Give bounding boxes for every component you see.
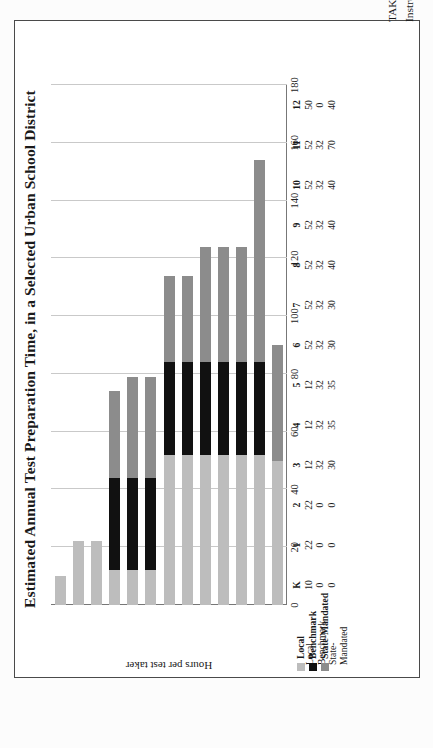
bar-segment-state-mandated <box>272 345 283 461</box>
source-note: TAKEN FROM: Howard Nelson, “Testing More… <box>384 0 417 22</box>
grade-label: 2 <box>291 488 302 522</box>
bar-group <box>55 85 66 605</box>
table-cell-local: 12 <box>303 368 314 402</box>
grade-label: 12 <box>291 88 302 122</box>
table-cell-state: 70 <box>326 128 337 162</box>
table-column-grade-6: 6523230 <box>291 328 337 362</box>
table-cell-benchmark: 0 <box>314 88 325 122</box>
table-cell-benchmark: 0 <box>314 488 325 522</box>
table-cell-benchmark: 32 <box>314 328 325 362</box>
bar-segment-local <box>127 570 138 605</box>
local-swatch <box>297 663 305 671</box>
bar-segment-benchmark <box>218 362 229 454</box>
bar-segment-local <box>55 576 66 605</box>
bar-group <box>272 85 283 605</box>
table-cell-benchmark: 32 <box>314 168 325 202</box>
bar-group <box>236 85 247 605</box>
table-cell-local: 50 <box>303 88 314 122</box>
table-cell-state: 40 <box>326 168 337 202</box>
table-cell-state: 30 <box>326 288 337 322</box>
table-cell-benchmark: 0 <box>314 528 325 562</box>
table-cell-benchmark: 32 <box>314 208 325 242</box>
bar-segment-state-mandated <box>254 160 265 362</box>
bar-segment-benchmark <box>109 478 120 570</box>
legend-item-local[interactable]: Local <box>295 593 307 671</box>
table-cell-local: 22 <box>303 528 314 562</box>
table-cell-state: 0 <box>326 488 337 522</box>
bar-segment-benchmark <box>127 478 138 570</box>
legend-item-state-mandated[interactable]: State-Mandated <box>319 593 331 671</box>
table-cell-benchmark: 32 <box>314 248 325 282</box>
value-axis-label: Hours per test taker <box>51 655 287 677</box>
table-column-grade-5: 5123235 <box>291 368 337 402</box>
table-cell-state: 30 <box>326 448 337 482</box>
bar-group <box>145 85 156 605</box>
table-cell-local: 52 <box>303 168 314 202</box>
bar-segment-state-mandated <box>164 276 175 363</box>
table-cell-benchmark: 32 <box>314 368 325 402</box>
bar-group <box>164 85 175 605</box>
bar-segment-local <box>254 455 265 605</box>
table-cell-benchmark: 32 <box>314 408 325 442</box>
bar-group <box>218 85 229 605</box>
bar-group <box>73 85 84 605</box>
bar-segment-local <box>272 461 283 605</box>
value-axis-label-text: Hours per test taker <box>126 660 212 672</box>
bar-group <box>91 85 102 605</box>
chart-legend: LocalBenchmarkState-Mandated <box>295 593 331 671</box>
bar-segment-benchmark <box>145 478 156 570</box>
table-cell-benchmark: 32 <box>314 288 325 322</box>
table-cell-local: 52 <box>303 248 314 282</box>
table-cell-state: 35 <box>326 368 337 402</box>
grade-label: 8 <box>291 248 302 282</box>
bar-segment-state-mandated <box>127 377 138 478</box>
grade-label: 10 <box>291 168 302 202</box>
bar-segment-benchmark <box>182 362 193 454</box>
table-column-grade-2: 22200 <box>291 488 337 522</box>
bar-group <box>182 85 193 605</box>
table-column-grade-12: 1250040 <box>291 88 337 122</box>
table-column-grade-4: 4123235 <box>291 408 337 442</box>
table-cell-local: 22 <box>303 488 314 522</box>
grade-label: 11 <box>291 128 302 162</box>
page-canvas: Estimated Annual Test Preparation Time, … <box>0 0 433 748</box>
bar-segment-local <box>236 455 247 605</box>
table-cell-state: 40 <box>326 248 337 282</box>
table-cell-state: 40 <box>326 88 337 122</box>
bar-group <box>127 85 138 605</box>
table-column-grade-8: 8523240 <box>291 248 337 282</box>
bar-segment-state-mandated <box>200 247 211 363</box>
table-column-grade-3: 3123230 <box>291 448 337 482</box>
table-cell-state: 35 <box>326 408 337 442</box>
grade-label: 7 <box>291 288 302 322</box>
table-cell-state: 40 <box>326 208 337 242</box>
bar-group <box>200 85 211 605</box>
bar-segment-local <box>91 541 102 605</box>
bar-segment-local <box>145 570 156 605</box>
table-cell-state: 30 <box>326 328 337 362</box>
bar-segment-local <box>73 541 84 605</box>
table-cell-state: 0 <box>326 528 337 562</box>
bar-segment-local <box>182 455 193 605</box>
table-column-grade-11: 11523270 <box>291 128 337 162</box>
chart-figure: Estimated Annual Test Preparation Time, … <box>15 21 419 677</box>
bar-segment-state-mandated <box>236 247 247 363</box>
table-cell-benchmark: 32 <box>314 448 325 482</box>
grade-label: 4 <box>291 408 302 442</box>
table-column-grade-9: 9523240 <box>291 208 337 242</box>
bar-segment-state-mandated <box>145 377 156 478</box>
bar-segment-local <box>200 455 211 605</box>
bar-segment-state-mandated <box>109 391 120 478</box>
table-cell-local: 12 <box>303 448 314 482</box>
rotated-figure-wrapper: Estimated Annual Test Preparation Time, … <box>15 21 419 677</box>
bar-segment-state-mandated <box>182 276 193 363</box>
table-cell-local: 52 <box>303 288 314 322</box>
legend-item-benchmark[interactable]: Benchmark <box>307 593 319 671</box>
grade-label: 1 <box>291 528 302 562</box>
bar-segment-benchmark <box>164 362 175 454</box>
legend-label: Local <box>295 636 307 659</box>
bar-segment-benchmark <box>254 362 265 454</box>
chart-title: Estimated Annual Test Preparation Time, … <box>21 21 39 677</box>
bar-segment-state-mandated <box>218 247 229 363</box>
grade-label: 3 <box>291 448 302 482</box>
